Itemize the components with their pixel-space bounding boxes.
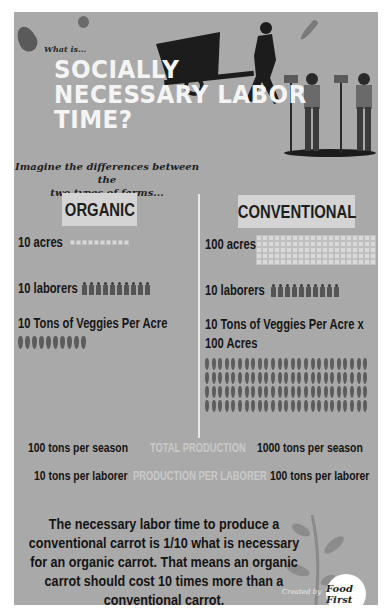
carrot-icon <box>238 400 242 412</box>
carrot-icon <box>205 386 209 398</box>
carrot-icon <box>245 386 249 398</box>
conventional-total-production: 1000 tons per season <box>257 440 363 455</box>
carrot-icon <box>231 358 235 370</box>
carrot-icon <box>337 400 341 412</box>
carrot-icon <box>304 372 308 384</box>
carrot-icon <box>343 358 347 370</box>
carrot-icon <box>46 336 51 349</box>
carrot-icon <box>245 400 249 412</box>
carrot-icon <box>258 358 262 370</box>
laborer-icon <box>284 284 291 297</box>
carrot-icon <box>245 358 249 370</box>
acre-icon <box>94 240 99 245</box>
acre-icon <box>76 240 81 245</box>
carrot-icon <box>350 372 354 384</box>
food-first-logo: Food First <box>326 574 366 605</box>
carrot-icon <box>32 336 37 349</box>
conventional-laborer-icons <box>270 284 340 297</box>
acre-icon <box>82 240 87 245</box>
carrot-icon <box>231 386 235 398</box>
carrot-icon <box>218 358 222 370</box>
conventional-per-laborer: 100 tons per laborer <box>270 468 369 483</box>
conclusion-line-1: The necessary labor time to produce a <box>21 514 307 533</box>
carrot-icon <box>278 372 282 384</box>
conclusion-line-5: conventional carrot. <box>21 590 307 605</box>
carrot-icon <box>238 386 242 398</box>
laborer-icon <box>298 284 305 297</box>
carrot-icon <box>291 400 295 412</box>
laborer-icon <box>88 282 95 295</box>
acre-icon <box>100 240 105 245</box>
production-per-laborer-row: 10 tons per laborer PRODUCTION PER LABOR… <box>14 468 378 486</box>
carrot-icon <box>225 358 229 370</box>
laborer-icon <box>137 282 144 295</box>
carrot-icon <box>363 386 367 398</box>
carrot-icon <box>297 358 301 370</box>
kicker-text: What is... <box>44 44 86 54</box>
carrot-icon <box>343 372 347 384</box>
carrot-icon <box>271 386 275 398</box>
organic-carrot-icons <box>18 336 86 349</box>
carrot-icon <box>225 400 229 412</box>
carrot-icon <box>337 372 341 384</box>
carrot-icon <box>337 358 341 370</box>
laborer-icon <box>102 282 109 295</box>
laborer-icon <box>312 284 319 297</box>
carrot-icon <box>311 386 315 398</box>
laborer-icon <box>81 282 88 295</box>
carrot-icon <box>317 386 321 398</box>
carrot-icon <box>330 358 334 370</box>
organic-label: ORGANIC <box>65 199 135 221</box>
total-production-row: 100 tons per season TOTAL PRODUCTION 100… <box>14 440 378 458</box>
carrot-icon <box>357 400 361 412</box>
conventional-veggies-text-2: 100 Acres <box>205 335 258 351</box>
carrot-icon <box>39 336 44 349</box>
carrot-icon <box>311 372 315 384</box>
carrot-icon <box>317 358 321 370</box>
carrot-icon <box>25 336 30 349</box>
carrot-icon <box>251 386 255 398</box>
production-per-laborer-label: PRODUCTION PER LABORER <box>133 469 267 483</box>
carrot-icon <box>205 358 209 370</box>
carrot-icon <box>218 372 222 384</box>
conventional-acres-grid <box>256 235 376 265</box>
carrot-icon <box>205 400 209 412</box>
carrot-icon <box>264 372 268 384</box>
carrot-icon <box>304 400 308 412</box>
conventional-label-box: CONVENTIONAL <box>238 195 355 228</box>
laborer-icon <box>130 282 137 295</box>
carrot-icon <box>284 400 288 412</box>
laborer-icon <box>116 282 123 295</box>
organic-label-box: ORGANIC <box>62 193 137 226</box>
carrot-icon <box>284 358 288 370</box>
carrot-icon <box>350 386 354 398</box>
carrot-icon <box>251 400 255 412</box>
carrot-icon <box>225 372 229 384</box>
title-line-1: SOCIALLY <box>54 57 307 82</box>
carrot-icon <box>271 372 275 384</box>
conventional-laborers-text: 10 laborers <box>205 282 265 298</box>
carrot-icon <box>212 386 216 398</box>
organic-acres-text: 10 acres <box>18 234 63 250</box>
laborer-icon <box>270 284 277 297</box>
carrot-icon <box>258 372 262 384</box>
carrot-icon <box>291 358 295 370</box>
conclusion-line-2: conventional carrot is 1/10 what is nece… <box>21 533 307 552</box>
column-divider <box>198 194 200 438</box>
infographic-panel: What is... SOCIALLY NECESSARY LABOR TIME… <box>14 12 378 605</box>
organic-total-production: 100 tons per season <box>28 440 128 455</box>
carrot-icon <box>297 386 301 398</box>
carrot-icon <box>363 372 367 384</box>
carrot-icon <box>264 400 268 412</box>
logo-text: Food First <box>326 583 366 605</box>
conventional-veggies-text-1: 10 Tons of Veggies Per Acre x <box>205 316 364 332</box>
carrot-icon <box>304 358 308 370</box>
carrot-icon <box>299 19 319 41</box>
carrot-icon <box>357 358 361 370</box>
carrot-icon <box>81 336 86 349</box>
carrot-icon <box>324 372 328 384</box>
carrot-icon <box>218 386 222 398</box>
carrot-icon <box>238 358 242 370</box>
carrot-icon <box>231 400 235 412</box>
organic-per-laborer: 10 tons per laborer <box>34 468 128 483</box>
